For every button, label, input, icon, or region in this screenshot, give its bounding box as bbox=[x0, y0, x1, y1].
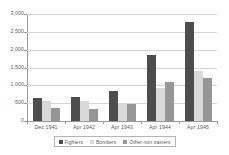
x-axis-category-label: Apr 1945 bbox=[179, 124, 217, 130]
y-axis-tick-label: 1,000 bbox=[0, 83, 24, 88]
bar-group bbox=[65, 14, 103, 121]
bar[interactable] bbox=[71, 97, 80, 121]
chart-legend: FightersBombersOther non trainers bbox=[53, 136, 175, 147]
legend-item[interactable]: Bombers bbox=[90, 139, 116, 145]
bar[interactable] bbox=[51, 108, 60, 121]
y-axis-tick-label: 3,000 bbox=[0, 11, 24, 16]
x-axis-tick bbox=[217, 121, 218, 124]
plot-area bbox=[27, 14, 217, 121]
y-axis-labels: 05001,0001,5002,0002,5003,000 bbox=[0, 14, 24, 121]
x-axis-labels: Dec 1941Apr 1942Apr 1943Apr 1944Apr 1945 bbox=[27, 124, 217, 130]
bar[interactable] bbox=[109, 91, 118, 121]
x-axis-category-label: Apr 1942 bbox=[65, 124, 103, 130]
bar[interactable] bbox=[156, 88, 165, 121]
legend-label: Fighters bbox=[64, 139, 82, 145]
bar-group bbox=[179, 14, 217, 121]
y-axis-tick-label: 2,500 bbox=[0, 29, 24, 34]
bar[interactable] bbox=[33, 98, 42, 121]
y-axis-tick bbox=[24, 50, 27, 51]
legend-item[interactable]: Other non trainers bbox=[123, 139, 170, 145]
x-axis-category-label: Apr 1944 bbox=[141, 124, 179, 130]
x-axis-category-label: Dec 1941 bbox=[27, 124, 65, 130]
bar[interactable] bbox=[203, 78, 212, 121]
y-axis-tick bbox=[24, 14, 27, 15]
bar[interactable] bbox=[89, 109, 98, 121]
legend-swatch-icon bbox=[90, 140, 94, 144]
legend-label: Bombers bbox=[96, 139, 116, 145]
bar[interactable] bbox=[194, 71, 203, 121]
bar[interactable] bbox=[185, 22, 194, 121]
bar[interactable] bbox=[42, 101, 51, 121]
bar[interactable] bbox=[118, 103, 127, 121]
legend-swatch-icon bbox=[58, 140, 62, 144]
y-axis-tick bbox=[24, 32, 27, 33]
y-axis-tick bbox=[24, 68, 27, 69]
y-axis-tick-label: 2,000 bbox=[0, 47, 24, 52]
y-axis-tick bbox=[24, 103, 27, 104]
legend-label: Other non trainers bbox=[129, 139, 170, 145]
bar-group bbox=[141, 14, 179, 121]
bar[interactable] bbox=[165, 82, 174, 121]
bar-group bbox=[27, 14, 65, 121]
y-axis-tick-label: 500 bbox=[0, 101, 24, 106]
legend-item[interactable]: Fighters bbox=[58, 139, 82, 145]
y-axis-tick-label: 1,500 bbox=[0, 65, 24, 70]
legend-swatch-icon bbox=[123, 140, 127, 144]
bar-group bbox=[103, 14, 141, 121]
y-axis-tick bbox=[24, 121, 27, 122]
x-axis-category-label: Apr 1943 bbox=[103, 124, 141, 130]
bar-chart: 05001,0001,5002,0002,5003,000 Dec 1941Ap… bbox=[0, 0, 229, 155]
y-axis-tick-label: 0 bbox=[0, 118, 24, 123]
bar[interactable] bbox=[127, 104, 136, 121]
y-axis-tick bbox=[24, 85, 27, 86]
bar[interactable] bbox=[147, 55, 156, 121]
bar[interactable] bbox=[80, 101, 89, 121]
bar-groups bbox=[27, 14, 217, 121]
